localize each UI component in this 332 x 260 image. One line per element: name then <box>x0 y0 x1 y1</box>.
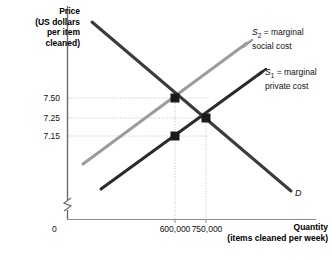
curve-label-s1-line2: private cost <box>265 81 317 92</box>
y-axis-title-line2: (US dollars <box>8 17 80 28</box>
ytick-label-725: 7.25 <box>24 113 60 123</box>
curve-label-s2-line1: S2 = marginal <box>252 27 304 41</box>
curve-s2-marginal-social-cost <box>83 43 247 164</box>
y-axis-title: Price (US dollars per item cleaned) <box>8 6 80 48</box>
y-axis-title-line4: cleaned) <box>8 38 80 49</box>
curve-label-s1-line1: S1 = marginal <box>265 67 317 81</box>
curve-label-s2-line2: social cost <box>252 41 304 52</box>
xtick-label-origin: 0 <box>52 224 57 234</box>
supply-demand-chart: Price (US dollars per item cleaned) Quan… <box>0 0 332 260</box>
y-axis-title-line3: per item <box>8 27 80 38</box>
xtick-label-750000: 750,000 <box>179 224 235 234</box>
curve-label-s1-text: = marginal <box>274 67 316 77</box>
curve-label-s2: S2 = marginal social cost <box>252 27 304 52</box>
ytick-label-750: 7.50 <box>24 93 60 103</box>
y-axis-title-line1: Price <box>8 6 80 17</box>
y-axis-break-icon <box>64 198 71 211</box>
x-axis-title: Quantity <box>236 222 328 233</box>
point-social-optimum <box>171 94 180 103</box>
point-private-cost-at-optimum <box>171 132 180 141</box>
point-market-equilibrium <box>202 114 211 123</box>
curve-label-s2-text: = marginal <box>261 27 303 37</box>
curve-label-d: D <box>295 188 302 198</box>
ytick-label-715: 7.15 <box>24 131 60 141</box>
x-axis-subtitle: (items cleaned per week) <box>196 233 328 244</box>
curve-label-s1: S1 = marginal private cost <box>265 67 317 92</box>
